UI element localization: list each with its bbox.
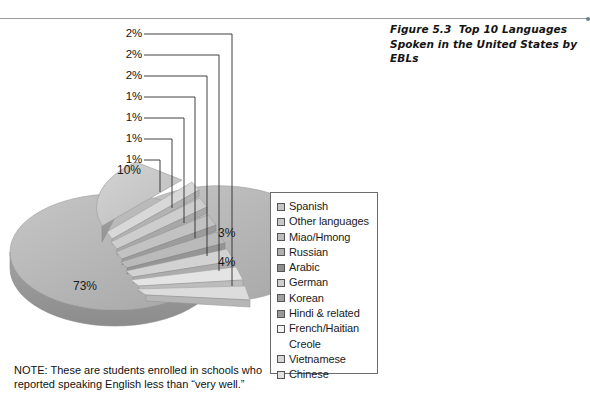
legend-item-spanish[interactable]: Spanish (277, 199, 377, 214)
legend-label: Creole (289, 337, 321, 352)
legend-item-chinese[interactable]: Chinese (277, 367, 377, 382)
figure-caption: Figure 5.3 Top 10 Languages Spoken in th… (390, 22, 588, 66)
legend-item-vietnamese[interactable]: Vietnamese (277, 352, 377, 367)
figure-note: NOTE: These are students enrolled in sch… (14, 364, 284, 391)
slice-label-other-languages: 10% (117, 163, 141, 177)
legend-swatch-icon (277, 310, 285, 318)
slice-label-spanish: 73% (73, 279, 97, 293)
legend-swatch-icon (277, 203, 285, 211)
legend-label: French/Haitian (289, 321, 359, 336)
chart-legend: Spanish Other languages Miao/Hmong Russi… (270, 192, 378, 374)
slice-label-vietnamese: 3% (218, 226, 236, 240)
slice-label-chinese: 4% (218, 255, 236, 269)
legend-swatch-icon (277, 355, 285, 363)
callout-label-6: 1% (108, 132, 142, 144)
legend-swatch-icon (277, 264, 285, 272)
legend-item-hindi-related[interactable]: Hindi & related (277, 306, 377, 321)
legend-label: Other languages (289, 214, 369, 229)
callout-label-1: 2% (108, 27, 142, 39)
rule-end-dot (586, 17, 590, 21)
legend-swatch-icon (277, 233, 285, 241)
legend-swatch-icon (277, 279, 285, 287)
legend-item-french-haitian-creole[interactable]: French/Haitian (277, 321, 377, 336)
legend-label: Chinese (289, 367, 329, 382)
legend-swatch-icon (277, 218, 285, 226)
legend-item-other-languages[interactable]: Other languages (277, 214, 377, 229)
legend-label: Vietnamese (289, 352, 346, 367)
callout-label-4: 1% (108, 90, 142, 102)
legend-swatch-icon (277, 248, 285, 256)
legend-label: Russian (289, 245, 328, 260)
legend-label: Korean (289, 291, 324, 306)
callout-label-7: 1% (108, 153, 142, 165)
legend-label: Miao/Hmong (289, 230, 350, 245)
legend-item-arabic[interactable]: Arabic (277, 260, 377, 275)
callout-label-3: 2% (108, 69, 142, 81)
callout-label-2: 2% (108, 48, 142, 60)
callout-label-5: 1% (108, 111, 142, 123)
legend-item-french-haitian-creole-line2: Creole (277, 337, 377, 352)
legend-label: Spanish (289, 199, 328, 214)
legend-item-russian[interactable]: Russian (277, 245, 377, 260)
legend-label: Hindi & related (289, 306, 360, 321)
legend-swatch-spacer-icon (277, 340, 285, 348)
legend-swatch-icon (277, 325, 285, 333)
legend-label: German (289, 275, 328, 290)
legend-item-miao-hmong[interactable]: Miao/Hmong (277, 230, 377, 245)
legend-item-korean[interactable]: Korean (277, 291, 377, 306)
legend-label: Arabic (289, 260, 320, 275)
legend-item-german[interactable]: German (277, 275, 377, 290)
legend-swatch-icon (277, 294, 285, 302)
